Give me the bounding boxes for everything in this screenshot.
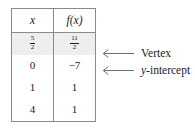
table-body: 5 2 11 2 0 −7 1 1 4 bbox=[12, 33, 95, 122]
cell-x-value: 4 bbox=[12, 99, 54, 121]
table-row: 4 1 bbox=[12, 99, 95, 121]
cell-fx-value: 1 bbox=[54, 77, 96, 99]
left-arrow-icon bbox=[99, 66, 135, 75]
annotation-y-intercept: y-intercept bbox=[99, 62, 190, 78]
annotation-y-intercept-label: y-intercept bbox=[141, 64, 190, 76]
column-header-x: x bbox=[12, 9, 54, 33]
annotation-vertex: Vertex bbox=[99, 45, 171, 61]
cell-fx-value: 11 2 bbox=[54, 33, 96, 55]
fraction-eleven-halves: 11 2 bbox=[70, 35, 79, 51]
column-header-fx: f(x) bbox=[54, 9, 96, 33]
value-table-grid: x f(x) 5 2 11 2 bbox=[12, 9, 95, 121]
table-header: x f(x) bbox=[12, 9, 95, 33]
annotation-intercept-text: -intercept bbox=[146, 64, 190, 76]
fraction-numerator: 11 bbox=[70, 35, 79, 42]
cell-fx-value: 1 bbox=[54, 99, 96, 121]
fraction-denominator: 2 bbox=[70, 43, 79, 51]
function-value-table: x f(x) 5 2 11 2 bbox=[11, 8, 96, 122]
left-arrow-icon bbox=[99, 49, 135, 58]
cell-x-value: 0 bbox=[12, 55, 54, 77]
cell-x-value: 1 bbox=[12, 77, 54, 99]
table-row: 0 −7 bbox=[12, 55, 95, 77]
fraction-numerator: 5 bbox=[30, 35, 36, 42]
fraction-five-halves: 5 2 bbox=[30, 35, 36, 51]
annotation-vertex-label: Vertex bbox=[141, 47, 171, 59]
table-row: 1 1 bbox=[12, 77, 95, 99]
cell-fx-value: −7 bbox=[54, 55, 96, 77]
fraction-denominator: 2 bbox=[30, 43, 36, 51]
cell-x-value: 5 2 bbox=[12, 33, 54, 55]
table-header-row: x f(x) bbox=[12, 9, 95, 33]
table-row: 5 2 11 2 bbox=[12, 33, 95, 55]
